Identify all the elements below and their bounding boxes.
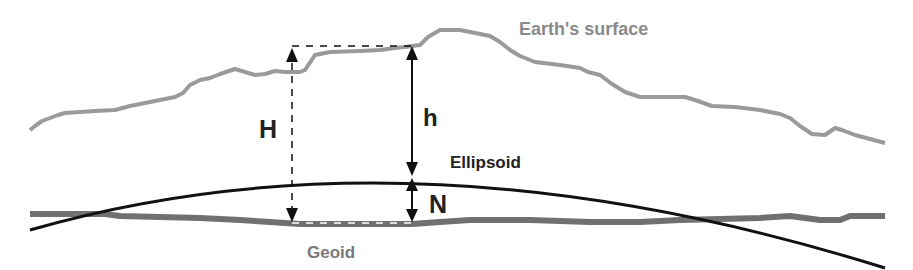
ellipsoid-line: [30, 183, 885, 268]
h-upper-arrowhead-icon: [286, 48, 298, 62]
ellipsoid-label: Ellipsoid: [450, 153, 521, 172]
diagram-canvas: Earth's surface H h Ellipsoid N Geoid: [0, 0, 913, 270]
geodesy-height-diagram: Earth's surface H h Ellipsoid N Geoid: [0, 0, 913, 270]
earth-surface-label: Earth's surface: [519, 19, 648, 39]
geoid-line: [30, 214, 885, 224]
h-lower-arrowhead-icon: [286, 208, 298, 222]
ellipsoidal-height-label: h: [423, 104, 438, 131]
geoid-label: Geoid: [307, 243, 355, 262]
geoid-undulation-label: N: [429, 190, 447, 218]
orthometric-height-label: H: [259, 115, 277, 143]
n-bottom-arrowhead-icon: [406, 209, 418, 222]
earth-surface-line: [30, 30, 885, 143]
h-bottom-arrowhead-icon: [406, 162, 418, 176]
